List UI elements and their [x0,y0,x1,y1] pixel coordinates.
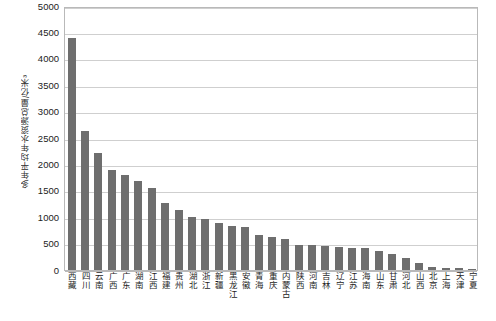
bar-chart: 多年平均年水资源总量/亿米³ 0500100015002000250030003… [0,0,496,321]
bar [468,269,476,270]
bar-slot [92,8,105,270]
x-tick-label: 海南 [360,272,370,290]
bar [402,258,410,269]
bar-slot [439,8,452,270]
x-tick-label: 陕西 [293,272,303,290]
bar [415,263,423,270]
plot-area [64,7,478,271]
x-tick-label: 宁夏 [467,272,477,290]
y-tick-label: 3000 [38,107,59,117]
y-tick-label: 2500 [38,134,59,144]
bar-slot [426,8,439,270]
x-tick-label: 河北 [400,272,410,290]
bar-slot [279,8,292,270]
bar [228,226,236,270]
bar-slot [466,8,479,270]
bar [68,38,76,270]
bar-slot [185,8,198,270]
bar [268,237,276,270]
bar-slot [158,8,171,270]
bar [388,254,396,270]
bar-slot [265,8,278,270]
bar [161,203,169,270]
y-tick-label: 4500 [38,28,59,38]
y-axis-tick-labels: 0500100015002000250030003500400045005000 [30,0,62,276]
x-tick-label: 重庆 [266,272,276,290]
bar [335,247,343,269]
bar [108,170,116,269]
bar [348,248,356,270]
bar-slot [105,8,118,270]
bar [241,227,249,269]
x-tick-label: 安徽 [239,272,249,290]
x-tick-label: 辽宁 [333,272,343,290]
y-tick-label: 5000 [38,2,59,12]
bar-slot [372,8,385,270]
bar [361,248,369,269]
bar-slot [132,8,145,270]
bar-slot [332,8,345,270]
bar-slot [386,8,399,270]
x-tick-label: 山东 [373,272,383,290]
x-axis-tick-labels: 西藏四川云南广西广东湖南江西福建贵州湖北浙江新疆黑龙江安徽青海重庆内蒙古陕西河南… [64,272,478,321]
bar [81,131,89,269]
bar [175,210,183,269]
x-tick-label: 甘肃 [386,272,396,290]
x-tick-label: 天津 [453,272,463,290]
bar-slot [78,8,91,270]
bar-slot [412,8,425,270]
x-tick-label: 吉林 [320,272,330,290]
x-tick-label: 江西 [146,272,156,290]
x-tick-label: 黑龙江 [226,272,236,299]
y-tick-label: 2000 [38,160,59,170]
bar-slot [212,8,225,270]
bar-slot [199,8,212,270]
bar-slot [172,8,185,270]
x-tick-label: 广东 [119,272,129,290]
bar-slot [118,8,131,270]
bar [442,268,450,270]
bars-layer [65,8,477,270]
bar-slot [399,8,412,270]
x-tick-label: 湖南 [133,272,143,290]
bar [188,217,196,270]
bar [201,219,209,270]
y-tick-label: 4000 [38,55,59,65]
bar [295,245,303,270]
x-tick-label: 广西 [106,272,116,290]
bar [308,245,316,269]
bar-slot [65,8,78,270]
x-tick-label: 云南 [93,272,103,290]
x-tick-label: 江苏 [346,272,356,290]
x-tick-label: 四川 [79,272,89,290]
x-tick-label: 内蒙古 [280,272,290,299]
bar [148,188,156,270]
y-tick-label: 3500 [38,81,59,91]
bar-slot [292,8,305,270]
bar-slot [359,8,372,270]
x-tick-label: 新疆 [213,272,223,290]
x-tick-label: 河南 [306,272,316,290]
x-tick-label: 西藏 [66,272,76,290]
x-tick-label: 浙江 [199,272,209,290]
bar-slot [452,8,465,270]
bar [375,251,383,270]
x-tick-label: 山西 [413,272,423,290]
x-tick-label: 贵州 [173,272,183,290]
bar [94,153,102,269]
bar-slot [225,8,238,270]
y-tick-label: 1000 [38,213,59,223]
bar-slot [252,8,265,270]
bar-slot [239,8,252,270]
bar [134,181,142,270]
bar-slot [319,8,332,270]
x-tick-label: 福建 [159,272,169,290]
bar [255,235,263,270]
bar [428,267,436,269]
bar [455,268,463,269]
y-tick-label: 500 [43,239,59,249]
bar [121,175,129,270]
bar-slot [145,8,158,270]
bar-slot [305,8,318,270]
bar [281,239,289,270]
